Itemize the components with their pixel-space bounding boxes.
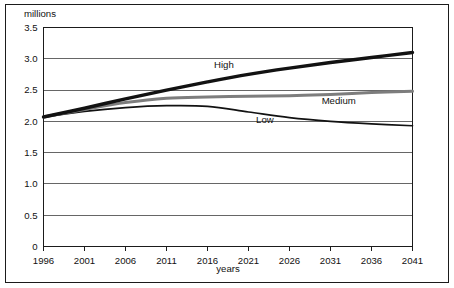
x-axis-title: years <box>216 263 240 274</box>
x-tick-label-2001: 2001 <box>74 255 95 266</box>
x-tick-label-2036: 2036 <box>361 255 382 266</box>
series-label-medium: Medium <box>322 95 356 106</box>
y-tick-label-2.5: 2.5 <box>24 84 37 95</box>
line-chart: 00.51.01.52.02.53.03.5 19962001200620112… <box>0 0 454 288</box>
x-tick-label-2006: 2006 <box>115 255 136 266</box>
y-tick-label-2.0: 2.0 <box>24 116 37 127</box>
y-tick-labels-group: 00.51.01.52.02.53.03.5 <box>24 22 37 252</box>
series-label-high: High <box>214 59 234 70</box>
y-tick-label-0: 0 <box>32 241 37 252</box>
x-tick-label-2031: 2031 <box>320 255 341 266</box>
y-axis-unit-label: millions <box>24 8 56 19</box>
series-line-low <box>44 106 413 126</box>
x-tick-label-1996: 1996 <box>33 255 54 266</box>
chart-figure: 00.51.01.52.02.53.03.5 19962001200620112… <box>0 0 454 288</box>
x-tick-label-2021: 2021 <box>238 255 259 266</box>
y-tick-label-1.0: 1.0 <box>24 178 37 189</box>
series-label-low: Low <box>256 114 274 125</box>
x-tick-label-2011: 2011 <box>156 255 177 266</box>
y-tick-label-3.5: 3.5 <box>24 22 37 33</box>
y-tick-label-0.5: 0.5 <box>24 210 37 221</box>
x-tick-label-2026: 2026 <box>279 255 300 266</box>
x-tick-label-2016: 2016 <box>197 255 218 266</box>
y-tick-label-1.5: 1.5 <box>24 147 37 158</box>
x-tick-label-2041: 2041 <box>402 255 423 266</box>
y-tick-label-3.0: 3.0 <box>24 53 37 64</box>
x-tick-marks-group <box>44 247 413 251</box>
